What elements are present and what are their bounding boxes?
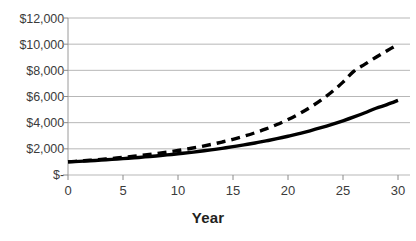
x-tick-label: 10 — [163, 184, 193, 197]
dashed-line-series — [68, 44, 398, 161]
chart-container: $12,000 $10,000 $8,000 $6,000 $4,000 $2,… — [0, 0, 416, 241]
x-axis-title: Year — [0, 209, 416, 226]
x-axis-tick-labels: 0 5 10 15 20 25 30 — [0, 184, 416, 204]
y-axis-ticks — [63, 18, 68, 175]
x-tick-label: 5 — [108, 184, 138, 197]
x-tick-label: 15 — [218, 184, 248, 197]
x-tick-label: 25 — [328, 184, 358, 197]
gridlines — [68, 18, 410, 175]
plot-area — [0, 0, 416, 241]
x-tick-label: 30 — [383, 184, 413, 197]
x-tick-label: 20 — [273, 184, 303, 197]
x-tick-label: 0 — [53, 184, 83, 197]
solid-line-series — [68, 100, 398, 162]
x-axis-ticks — [68, 175, 398, 180]
